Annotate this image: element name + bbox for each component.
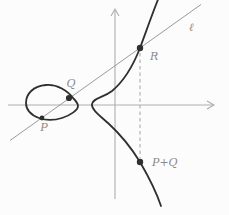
elliptic-curve-oval: [26, 85, 78, 120]
elliptic-curve-branch: [92, 0, 161, 206]
point-r-label: R: [149, 50, 158, 63]
point-p-label: P: [39, 121, 48, 134]
diagram-canvas: P Q R P+Q ℓ: [0, 0, 229, 215]
point-p-plus-q-label: P+Q: [151, 156, 178, 169]
point-q-label: Q: [66, 77, 75, 90]
point-r-dot: [137, 45, 143, 51]
point-p-plus-q-dot: [137, 159, 143, 165]
point-p-dot: [40, 116, 45, 121]
elliptic-curve-addition-diagram: P Q R P+Q ℓ: [0, 0, 229, 215]
line-l-label: ℓ: [189, 21, 194, 34]
point-q-dot: [66, 95, 72, 101]
